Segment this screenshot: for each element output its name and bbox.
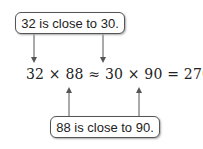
callout-top: 32 is close to 30. [15, 12, 125, 34]
equation: 32 × 88 ≈ 30 × 90 = 2700 [26, 66, 203, 82]
callout-bottom: 88 is close to 90. [50, 116, 160, 138]
